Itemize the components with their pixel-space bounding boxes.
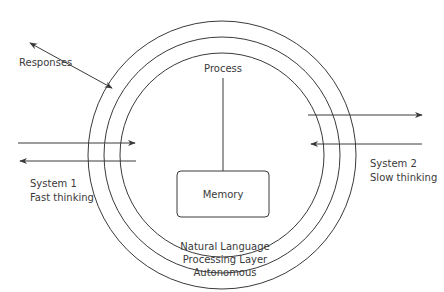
layer-label-line2: Processing Layer <box>183 254 268 265</box>
layer-label-line3: Autonomous <box>193 267 256 278</box>
memory-label: Memory <box>203 189 244 200</box>
inner-ring <box>120 53 324 257</box>
system1-sublabel: Fast thinking <box>30 192 94 203</box>
diagram-canvas: Responses System 1 Fast thinking System … <box>0 0 444 292</box>
system2-label: System 2 <box>370 158 417 169</box>
responses-label: Responses <box>19 57 72 68</box>
system2-sublabel: Slow thinking <box>370 172 437 183</box>
system1-label: System 1 <box>30 178 77 189</box>
layer-label-line1: Natural Language <box>180 241 269 252</box>
process-label: Process <box>204 63 242 74</box>
